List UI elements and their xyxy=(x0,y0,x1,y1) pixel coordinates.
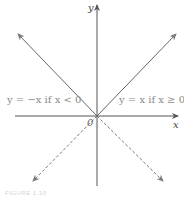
x-axis-label: x xyxy=(173,120,179,130)
figure-caption: FIGURE 1.10 xyxy=(5,190,47,196)
neg-branch-label: y = −x if x < 0 xyxy=(7,95,81,105)
pos-branch-label: y = x if x ≥ 0 xyxy=(119,95,184,105)
origin-label: 0 xyxy=(87,118,93,128)
dashed-branch-lower-right xyxy=(97,116,163,181)
y-axis-label: y xyxy=(88,3,94,13)
